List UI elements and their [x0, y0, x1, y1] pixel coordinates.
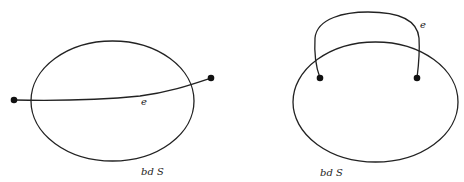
vertex-left-endpoint-2 [208, 75, 215, 82]
vertex-right-endpoint-2 [414, 75, 421, 82]
edge-label-left: e [141, 96, 147, 107]
vertex-right-endpoint-1 [317, 75, 324, 82]
edge-e-left [14, 78, 211, 100]
diagram-left: e bd S [11, 41, 215, 177]
region-label-left: bd S [141, 166, 164, 177]
figure-canvas: e bd S e bd S [0, 0, 464, 182]
vertex-left-endpoint-1 [11, 97, 18, 104]
diagram-right: e bd S [293, 12, 458, 178]
region-boundary-left [31, 41, 194, 161]
edge-label-right: e [420, 19, 426, 30]
region-boundary-right [293, 42, 458, 162]
region-label-right: bd S [320, 167, 343, 178]
